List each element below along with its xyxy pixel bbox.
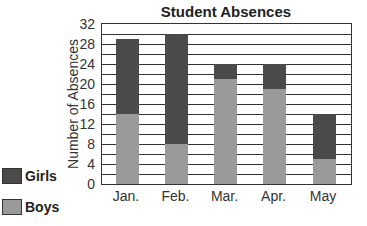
y-tick-label: 28	[75, 36, 95, 52]
bar-segment-girls	[116, 39, 139, 114]
x-tick-label: Jan.	[101, 188, 151, 204]
y-tick-label: 12	[75, 116, 95, 132]
y-tick-label: 4	[75, 156, 95, 172]
y-tick-label: 8	[75, 136, 95, 152]
bar-segment-boys	[165, 144, 188, 184]
bar-feb	[165, 24, 188, 184]
y-tick-label: 0	[75, 176, 95, 192]
bar-apr	[263, 24, 286, 184]
y-tick-label: 16	[75, 96, 95, 112]
legend-swatch-girls	[2, 168, 22, 184]
y-tick-label: 32	[75, 16, 95, 32]
legend-label-boys: Boys	[25, 199, 59, 215]
legend-item-girls: Girls	[2, 168, 57, 184]
bar-segment-girls	[263, 64, 286, 89]
bar-jan	[116, 24, 139, 184]
bar-mar	[214, 24, 237, 184]
bar-segment-girls	[214, 64, 237, 79]
y-tick-label: 24	[75, 56, 95, 72]
bar-segment-boys	[214, 79, 237, 184]
bar-segment-girls	[165, 34, 188, 144]
legend-label-girls: Girls	[25, 168, 57, 184]
legend-item-boys: Boys	[2, 199, 59, 215]
x-tick-label: Feb.	[151, 188, 201, 204]
bar-segment-boys	[263, 89, 286, 184]
bar-segment-boys	[313, 159, 336, 184]
y-tick-label: 20	[75, 76, 95, 92]
x-tick-label: Mar.	[200, 188, 250, 204]
x-tick-label: May	[298, 188, 348, 204]
plot-area	[101, 23, 352, 185]
legend-swatch-boys	[2, 199, 22, 215]
x-tick-label: Apr.	[249, 188, 299, 204]
bar-segment-boys	[116, 114, 139, 184]
bar-may	[313, 24, 336, 184]
chart-title: Student Absences	[101, 3, 351, 20]
bar-segment-girls	[313, 114, 336, 159]
